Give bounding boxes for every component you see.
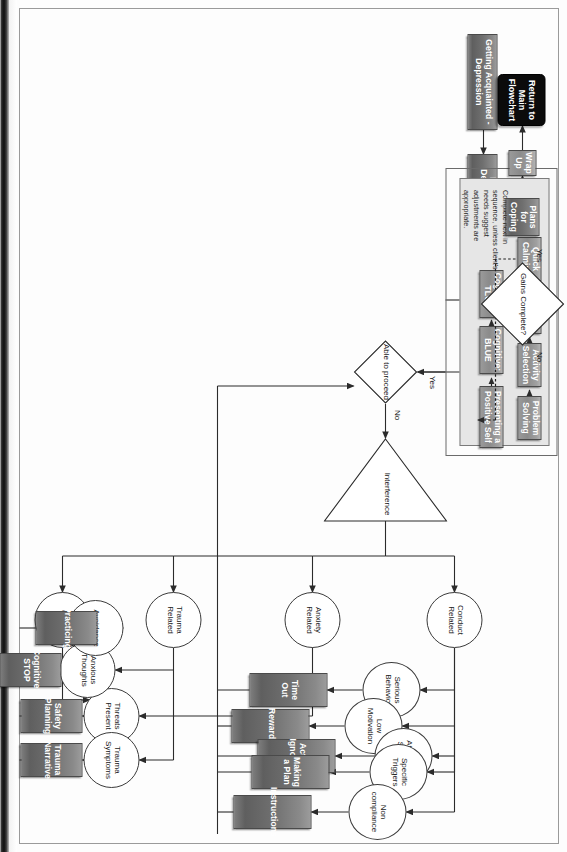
node-label: Practicing	[61, 607, 71, 649]
node-wrap-up[interactable]: Wrap Up	[508, 150, 536, 176]
node-label: Conduct Related	[445, 595, 463, 645]
edge-label-gains-no: No	[534, 352, 543, 362]
node-label: Trauma Narrative	[41, 741, 60, 779]
node-trigger-trauma-symptoms[interactable]: Trauma Symptoms	[83, 732, 139, 788]
node-return-to-main-flowchart[interactable]: Return to Main Flowchart	[497, 74, 545, 126]
node-label: Time Out	[278, 677, 297, 703]
node-module-safety-planning[interactable]: Safety Planning	[20, 699, 82, 733]
flowchart-canvas-wrapper: Getting Acquainted - Depression Learning…	[0, 0, 567, 852]
node-label: Cognitive: STOP	[20, 649, 39, 692]
edge-label-gains-yes: Yes	[534, 249, 543, 262]
node-label: Return to Main Flowchart	[506, 79, 536, 122]
node-label: Making a Plan	[280, 757, 299, 787]
node-trigger-non-compliance[interactable]: Non compliance	[348, 784, 406, 840]
node-conduct-related[interactable]: Conduct Related	[426, 592, 482, 648]
decision-gains-complete[interactable]: Gains Complete?	[480, 262, 564, 346]
node-label: Trauma Related	[164, 595, 182, 645]
node-module-making-a-plan[interactable]: Making a Plan	[251, 755, 329, 789]
node-label: Trauma Symptoms	[102, 735, 120, 785]
node-module-time-out[interactable]: Time Out	[249, 673, 327, 707]
flowchart-canvas: Getting Acquainted - Depression Learning…	[0, 0, 567, 852]
node-trauma-related[interactable]: Trauma Related	[145, 592, 201, 648]
node-anxiety-related[interactable]: Anxiety Related	[284, 592, 340, 648]
decision-label: Gains Complete?	[480, 262, 564, 346]
scanned-page: Getting Acquainted - Depression Learning…	[0, 0, 567, 852]
node-label: Plans for Coping	[508, 202, 537, 232]
node-label: Wrap Up	[512, 152, 531, 174]
node-module-trauma-narrative[interactable]: Trauma Narrative	[20, 743, 82, 777]
node-module-instructions[interactable]: Instructions	[233, 795, 311, 829]
node-label: Anxiety Related	[303, 595, 321, 645]
node-plans-for-coping[interactable]: Plans for Coping	[505, 198, 539, 236]
node-module-cognitive-stop[interactable]: Cognitive: STOP	[0, 653, 61, 687]
node-label: Safety Planning	[41, 698, 60, 735]
node-label: Non compliance	[368, 787, 386, 837]
node-module-practicing[interactable]: Practicing	[35, 611, 97, 645]
node-label: Instructions	[267, 787, 277, 837]
